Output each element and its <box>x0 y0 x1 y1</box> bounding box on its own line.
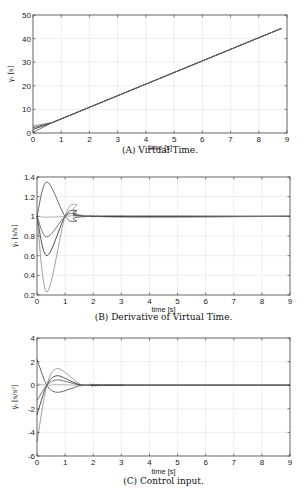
axes-frame <box>37 338 290 456</box>
chart-C: 0123456789-6-4-2024time [s]γ̈ᵢ [s/s²](C)… <box>11 334 293 486</box>
tick-labels: 012345678901020304050 <box>22 11 290 144</box>
tick-labels: 0123456789-6-4-2024 <box>28 334 293 467</box>
y-tick-label: -2 <box>28 405 36 414</box>
x-tick-label: 3 <box>115 135 120 144</box>
x-tick-label: 3 <box>119 297 124 306</box>
figure-caption: (C) Control input. <box>123 476 204 486</box>
x-tick-label: 8 <box>260 297 265 306</box>
y-tick-label: 0.4 <box>24 271 36 280</box>
y-tick-label: 0.2 <box>24 291 36 300</box>
x-tick-label: 1 <box>63 458 68 467</box>
x-tick-label: 9 <box>288 458 293 467</box>
x-tick-label: 7 <box>228 135 233 144</box>
x-tick-label: 3 <box>119 458 124 467</box>
y-tick-label: 0.6 <box>24 252 36 261</box>
x-tick-label: 9 <box>288 297 293 306</box>
grid-lines <box>33 15 287 133</box>
figure-caption: (A) Virtual Time. <box>122 145 198 155</box>
y-tick-label: 0.8 <box>24 232 36 241</box>
y-tick-label: 50 <box>22 11 31 20</box>
axes-frame <box>33 15 287 133</box>
x-tick-label: 6 <box>203 297 208 306</box>
x-tick-label: 8 <box>257 135 262 144</box>
data-series <box>37 359 290 442</box>
x-tick-label: 7 <box>232 458 237 467</box>
grid-lines <box>37 177 290 295</box>
y-axis-label: γ̈ᵢ [s/s²] <box>11 384 19 410</box>
y-tick-label: 0 <box>31 381 36 390</box>
x-tick-label: 5 <box>172 135 177 144</box>
x-tick-label: 2 <box>91 297 96 306</box>
tick-labels: 01234567890.20.40.60.811.21.4 <box>24 173 293 306</box>
x-tick-label: 1 <box>59 135 64 144</box>
data-series <box>33 28 281 132</box>
y-axis-label: γᵢ [s] <box>7 65 15 82</box>
x-tick-label: 2 <box>87 135 92 144</box>
x-tick-label: 5 <box>175 297 180 306</box>
series-line-agent4 <box>33 28 281 125</box>
x-tick-label: 9 <box>285 135 290 144</box>
figure-caption: (B) Derivative of Virtual Time. <box>95 312 233 322</box>
y-tick-label: 1 <box>31 212 36 221</box>
x-tick-label: 0 <box>35 297 40 306</box>
x-tick-label: 0 <box>35 458 40 467</box>
y-tick-label: 1.2 <box>24 193 36 202</box>
series-line-agent1 <box>37 359 290 392</box>
x-tick-label: 5 <box>175 458 180 467</box>
y-tick-label: -4 <box>28 428 36 437</box>
x-tick-label: 6 <box>200 135 205 144</box>
x-tick-label: 2 <box>91 458 96 467</box>
x-tick-label: 0 <box>31 135 36 144</box>
grid-lines <box>37 338 290 456</box>
y-tick-label: 1.4 <box>24 173 36 182</box>
chart-A: 012345678901020304050time [s]γᵢ [s](A) V… <box>7 11 290 155</box>
series-line-agent5 <box>37 368 290 441</box>
y-tick-label: 2 <box>31 358 36 367</box>
x-tick-label: 8 <box>260 458 265 467</box>
x-tick-label: 4 <box>147 458 152 467</box>
chart-B: 01234567890.20.40.60.811.21.4time [s]γ̇ᵢ… <box>11 173 293 322</box>
y-tick-label: 40 <box>22 35 31 44</box>
x-tick-label: 6 <box>203 458 208 467</box>
y-axis-label: γ̇ᵢ [s/s] <box>11 224 19 247</box>
y-tick-label: 30 <box>22 58 31 67</box>
y-tick-label: 4 <box>31 334 36 343</box>
x-tick-label: 7 <box>232 297 237 306</box>
y-tick-label: 0 <box>27 129 32 138</box>
figure-canvas: 012345678901020304050time [s]γᵢ [s](A) V… <box>0 0 306 502</box>
x-tick-label: 1 <box>63 297 68 306</box>
x-axis-label: time [s] <box>151 467 175 476</box>
y-tick-label: 10 <box>22 105 31 114</box>
y-tick-label: -6 <box>28 452 36 461</box>
y-tick-label: 20 <box>22 82 31 91</box>
